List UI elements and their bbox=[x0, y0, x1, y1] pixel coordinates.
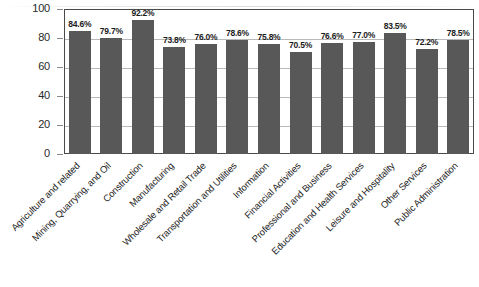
y-axis-tick-label: 20 bbox=[4, 118, 50, 130]
bar-value-label: 78.6% bbox=[226, 28, 249, 38]
bar-group: 79.7% bbox=[100, 9, 122, 154]
y-axis-tick-label: 40 bbox=[4, 89, 50, 101]
bar-group: 83.5% bbox=[384, 9, 406, 154]
bar-group: 84.6% bbox=[69, 9, 91, 154]
bar-group: 70.5% bbox=[290, 9, 312, 154]
y-axis-tick-mark bbox=[57, 9, 63, 10]
y-axis-tick-label: 80 bbox=[4, 31, 50, 43]
clipped-title-remnant bbox=[0, 6, 479, 7]
bar bbox=[321, 43, 343, 154]
bar-value-label: 70.5% bbox=[289, 40, 312, 50]
bar-value-label: 75.8% bbox=[258, 32, 281, 42]
y-axis-tick-mark bbox=[57, 38, 63, 39]
bar-group: 77.0% bbox=[353, 9, 375, 154]
bar-value-label: 84.6% bbox=[68, 19, 91, 29]
bar-group: 76.0% bbox=[195, 9, 217, 154]
bar-value-label: 73.8% bbox=[163, 35, 186, 45]
bar bbox=[290, 52, 312, 154]
bar bbox=[69, 31, 91, 154]
bar bbox=[384, 33, 406, 154]
bar-group: 92.2% bbox=[132, 9, 154, 154]
y-axis-tick-mark bbox=[57, 125, 63, 126]
x-axis-tick-label-text: Financial Activities bbox=[242, 160, 303, 221]
bar-value-label: 76.0% bbox=[194, 32, 217, 42]
bar bbox=[163, 47, 185, 154]
bar bbox=[132, 20, 154, 154]
bar-value-label: 72.2% bbox=[415, 37, 438, 47]
bar-value-label: 78.5% bbox=[447, 28, 470, 38]
bar-chart: 020406080100 84.6%79.7%92.2%73.8%76.0%78… bbox=[0, 0, 479, 287]
bar-value-label: 92.2% bbox=[131, 8, 154, 18]
y-axis-tick-label: 100 bbox=[4, 2, 50, 14]
bar-group: 75.8% bbox=[258, 9, 280, 154]
bar bbox=[353, 42, 375, 154]
bar bbox=[226, 40, 248, 154]
bar bbox=[195, 44, 217, 154]
bar bbox=[100, 38, 122, 154]
bar-value-label: 77.0% bbox=[352, 30, 375, 40]
y-axis-tick-mark bbox=[57, 96, 63, 97]
bar-group: 78.5% bbox=[447, 9, 469, 154]
bar-series: 84.6%79.7%92.2%73.8%76.0%78.6%75.8%70.5%… bbox=[64, 9, 474, 154]
y-axis-tick-label: 60 bbox=[4, 60, 50, 72]
bar bbox=[416, 49, 438, 154]
bar-value-label: 83.5% bbox=[384, 21, 407, 31]
bar bbox=[258, 44, 280, 154]
bar-value-label: 76.6% bbox=[321, 31, 344, 41]
bar-value-label: 79.7% bbox=[100, 26, 123, 36]
bar bbox=[447, 40, 469, 154]
bar-group: 78.6% bbox=[226, 9, 248, 154]
bar-group: 76.6% bbox=[321, 9, 343, 154]
bar-group: 72.2% bbox=[416, 9, 438, 154]
x-axis-category-labels: Agriculture and relatedMining, Quarrying… bbox=[0, 154, 479, 287]
bar-group: 73.8% bbox=[163, 9, 185, 154]
y-axis-tick-mark bbox=[57, 67, 63, 68]
